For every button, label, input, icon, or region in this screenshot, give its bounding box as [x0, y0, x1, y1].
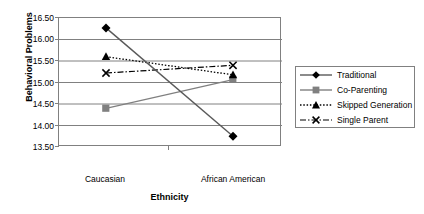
y-tick-label: 14.50 [24, 99, 54, 109]
x-tick-label: African American [185, 174, 281, 184]
legend-key-single-parent [299, 113, 333, 127]
y-tick-label: 16.00 [24, 34, 54, 44]
legend-key-skipped-generation [299, 98, 333, 112]
legend-key-traditional [299, 68, 333, 82]
y-tick-label: 14.00 [24, 121, 54, 131]
marker-triangle [102, 52, 110, 60]
y-tick-label: 16.50 [24, 13, 54, 23]
plot-area [58, 17, 281, 146]
y-tick-label: 15.00 [24, 78, 54, 88]
legend-item-skipped-generation: Skipped Generation [296, 97, 414, 112]
chart-legend: Traditional Co-Parenting Skipped Generat… [295, 66, 415, 128]
x-axis-title: Ethnicity [58, 192, 281, 202]
chart-canvas [59, 18, 282, 147]
chart-figure: Behavioral Problems 16.50 16.00 15.50 15… [0, 0, 424, 214]
x-tick-mark [168, 146, 169, 150]
series-line-skipped-generation [102, 52, 237, 78]
series-line-single-parent [102, 62, 236, 77]
legend-key-co-parenting [299, 83, 333, 97]
legend-label: Skipped Generation [333, 100, 412, 110]
legend-item-traditional: Traditional [296, 67, 414, 82]
y-axis-tick-labels: 16.50 16.00 15.50 15.00 14.50 14.00 13.5… [20, 0, 54, 214]
marker-cross-x [229, 62, 236, 69]
y-tick-label: 15.50 [24, 56, 54, 66]
y-tick-label: 13.50 [24, 142, 54, 152]
legend-item-co-parenting: Co-Parenting [296, 82, 414, 97]
legend-label: Single Parent [333, 115, 388, 125]
legend-label: Traditional [333, 70, 376, 80]
legend-label: Co-Parenting [333, 85, 387, 95]
marker-triangle [229, 70, 237, 78]
legend-item-single-parent: Single Parent [296, 112, 414, 127]
x-tick-label: Caucasian [75, 174, 135, 184]
marker-square [102, 105, 109, 112]
